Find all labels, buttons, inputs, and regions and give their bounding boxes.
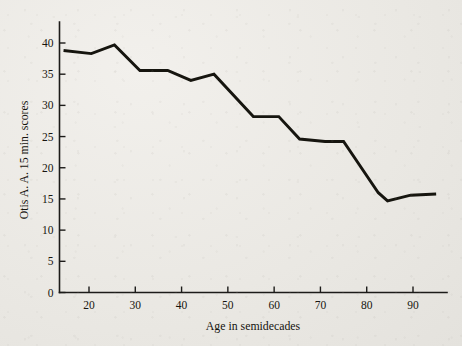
- y-tick-label: 10: [42, 224, 54, 236]
- x-tick-label: 50: [222, 299, 234, 311]
- y-tick-label: 25: [42, 131, 54, 143]
- y-axis-ticks: 0510152025303540: [42, 37, 66, 299]
- x-tick-label: 60: [268, 299, 280, 311]
- x-tick-label: 40: [176, 299, 188, 311]
- y-tick-label: 35: [42, 68, 54, 80]
- y-axis-title: Otis A. A. 15 min. scores: [17, 100, 31, 219]
- x-tick-label: 90: [407, 299, 419, 311]
- y-tick-label: 20: [42, 162, 54, 174]
- y-tick-label: 40: [42, 37, 54, 49]
- y-tick-label: 5: [48, 255, 54, 267]
- y-tick-label: 0: [48, 287, 54, 299]
- chart-figure: 0510152025303540 2030405060708090 Age in…: [0, 0, 462, 346]
- y-tick-label: 15: [42, 193, 54, 205]
- data-series-line: [64, 45, 437, 201]
- x-tick-label: 30: [130, 299, 142, 311]
- axes-group: [60, 22, 448, 293]
- x-tick-label: 80: [361, 299, 373, 311]
- x-axis-ticks: 2030405060708090: [83, 287, 419, 311]
- x-tick-label: 20: [83, 299, 95, 311]
- x-axis-title: Age in semidecades: [206, 319, 301, 333]
- line-chart-canvas: 0510152025303540 2030405060708090 Age in…: [0, 0, 462, 346]
- y-tick-label: 30: [42, 99, 54, 111]
- x-tick-label: 70: [315, 299, 327, 311]
